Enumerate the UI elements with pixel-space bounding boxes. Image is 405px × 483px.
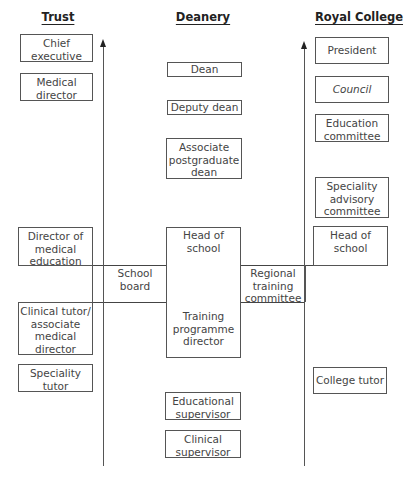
royal-college-heading: Royal College xyxy=(315,10,395,24)
president-box: President xyxy=(315,37,389,64)
education-committee-box: Education committee xyxy=(315,114,389,142)
college-head-of-school-box: Head of school xyxy=(313,226,388,266)
trust-deanery-arrow-line xyxy=(103,46,104,466)
dean-box: Dean xyxy=(167,62,242,77)
training-programme-director-label: Training programme director xyxy=(166,310,241,348)
council-box: Council xyxy=(315,76,389,103)
associate-postgraduate-dean-box: Associate postgraduate dean xyxy=(166,138,242,179)
head-of-school-label: Head of school xyxy=(166,229,241,254)
chief-executive-box: Chief executive xyxy=(20,34,93,62)
deanery-college-arrowhead-icon xyxy=(301,41,307,49)
speciality-advisory-committee-box: Speciality advisory committee xyxy=(315,177,389,218)
regional-training-committee-label: Regional training committee xyxy=(241,267,305,305)
director-of-medical-education-box: Director of medical education xyxy=(18,227,93,266)
deanery-heading: Deanery xyxy=(170,10,236,24)
educational-supervisor-box: Educational supervisor xyxy=(165,392,241,420)
school-board-label: School board xyxy=(104,267,166,292)
speciality-tutor-box: Speciality tutor xyxy=(18,364,93,392)
regional-committee-right-edge xyxy=(305,265,306,302)
college-tutor-box: College tutor xyxy=(313,367,387,394)
medical-director-box: Medical director xyxy=(20,73,93,101)
deanery-college-arrow-line xyxy=(304,48,305,466)
trust-heading: Trust xyxy=(30,10,86,24)
trust-deanery-arrowhead-icon xyxy=(100,39,106,47)
trust-right-divider xyxy=(92,265,93,302)
deputy-dean-box: Deputy dean xyxy=(167,100,242,115)
clinical-tutor-box: Clinical tutor/ associate medical direct… xyxy=(18,302,93,355)
clinical-supervisor-box: Clinical supervisor xyxy=(165,430,241,458)
